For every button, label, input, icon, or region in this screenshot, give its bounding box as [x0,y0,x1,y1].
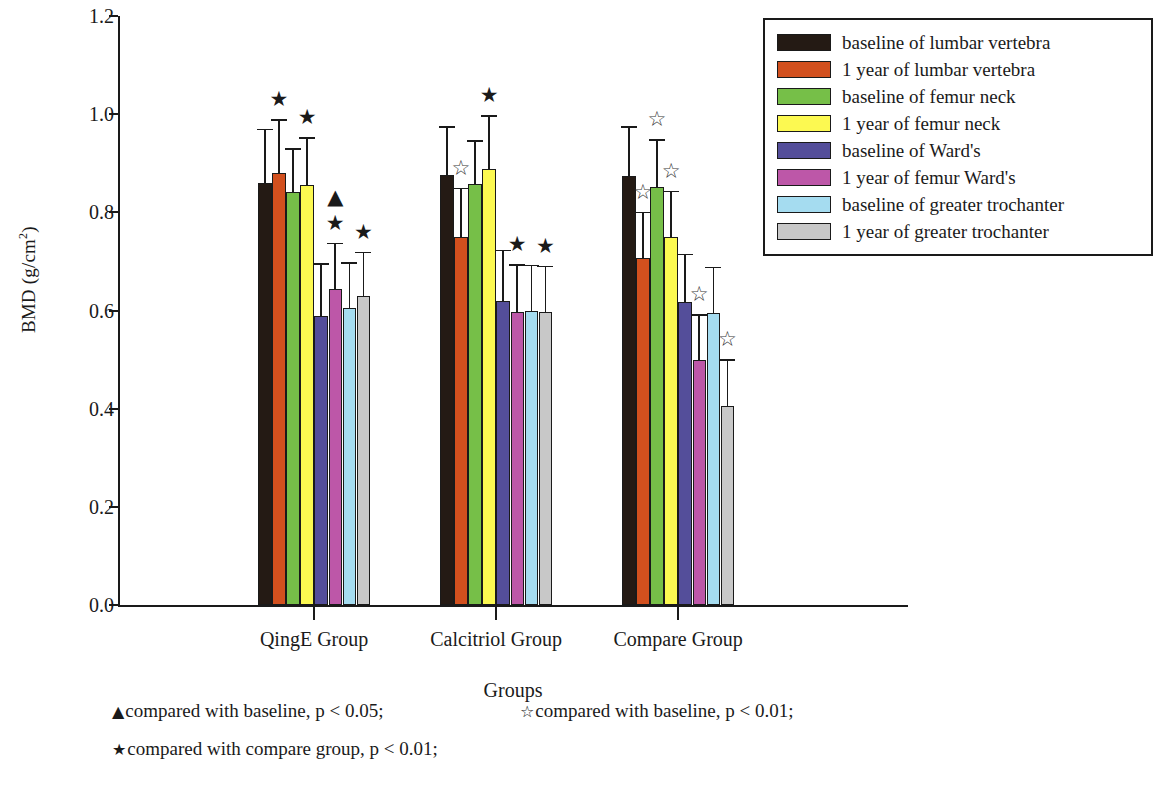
filled-triangle-icon: ▲ [112,702,124,721]
error-bar-cap [621,126,637,128]
error-bar-cap [285,148,301,150]
error-bar [334,243,336,290]
x-axis-line [118,605,908,607]
footnote-line-2: ★compared with compare group, p < 0.01; [112,738,1012,776]
error-bar-cap [677,254,693,256]
error-bar-cap [635,212,651,214]
legend-item: baseline of lumbar vertebra [777,29,1141,56]
legend-item-label: 1 year of greater trochanter [842,222,1049,241]
error-bar-cap [299,137,315,139]
error-bar-cap [537,266,553,268]
open-star-icon: ☆ [520,702,534,721]
error-bar-cap [691,314,707,316]
bar [693,360,707,605]
bar [329,289,343,605]
legend-swatch [777,61,831,78]
legend-item-label: baseline of femur neck [842,87,1016,106]
filled-star-icon: ★ [504,234,530,255]
x-axis-tick [495,607,497,620]
bar [454,237,468,605]
error-bar-cap [705,267,721,269]
bar [440,175,454,605]
open-star-icon: ☆ [448,158,474,179]
legend-swatch [777,169,831,186]
footnote-baseline-005: ▲compared with baseline, p < 0.05; [112,700,384,722]
legend-item-label: 1 year of femur Ward's [842,168,1016,187]
error-bar-cap [453,188,469,190]
error-bar [502,250,504,302]
error-bar [320,263,322,316]
legend-swatch [777,34,831,51]
error-bar [460,188,462,237]
legend-item: 1 year of femur neck [777,110,1141,137]
footnote-line-1: ▲compared with baseline, p < 0.05; ☆comp… [112,700,1012,738]
y-axis-tick-label: 1.0 [54,104,114,124]
bar [525,311,539,605]
open-star-icon: ☆ [644,109,670,130]
legend-item-label: 1 year of lumbar vertebra [842,60,1035,79]
error-bar [642,212,644,259]
bmd-bar-chart: BMD (g/cm2) 0.00.20.40.60.81.01.2 ★★★▲★☆… [0,0,1167,791]
bar [343,308,357,605]
chart-footnotes: ▲compared with baseline, p < 0.05; ☆comp… [112,700,1012,776]
filled-star-icon: ★ [266,89,292,110]
error-bar [474,140,476,184]
error-bar-cap [313,263,329,265]
filled-star-icon: ★ [322,213,348,234]
bar [511,312,525,605]
error-bar [628,126,630,176]
legend-swatch [777,196,831,213]
chart-legend: baseline of lumbar vertebra1 year of lum… [763,18,1153,256]
y-axis-tick-label: 0.8 [54,202,114,222]
filled-triangle-icon: ▲ [322,187,348,208]
x-axis-tick-label: Compare Group [568,628,788,651]
error-bar [670,191,672,238]
bar [650,187,664,605]
bar [678,302,692,605]
bar [636,258,650,605]
y-axis-tick-label: 0.2 [54,497,114,517]
bar [482,169,496,605]
bar [258,183,272,605]
filled-star-icon: ★ [112,740,126,759]
y-axis-title: BMD (g/cm2) [16,190,39,370]
y-axis-title-text: BMD (g/cm [18,239,39,333]
legend-item: baseline of femur neck [777,83,1141,110]
y-axis-tick-label: 0.6 [54,301,114,321]
error-bar-cap [257,129,273,131]
bar [272,173,286,605]
error-bar [698,314,700,359]
open-star-icon: ☆ [686,284,712,305]
legend-item-label: baseline of greater trochanter [842,195,1064,214]
x-axis-tick [313,607,315,620]
bar [468,184,482,605]
footnote-baseline-001-text: compared with baseline, p < 0.01; [535,700,793,721]
filled-star-icon: ★ [532,236,558,257]
error-bar [292,148,294,192]
legend-swatch [777,223,831,240]
footnote-compare-001: ★compared with compare group, p < 0.01; [112,738,438,760]
y-axis-tick-label: 0.0 [54,595,114,615]
error-bar-cap [649,139,665,141]
x-axis-title: Groups [118,679,908,702]
error-bar-cap [341,262,357,264]
legend-item: 1 year of greater trochanter [777,218,1141,245]
error-bar-cap [439,126,455,128]
footnote-baseline-005-text: compared with baseline, p < 0.05; [125,700,383,721]
error-bar [278,119,280,173]
legend-item-label: 1 year of femur neck [842,114,1000,133]
error-bar-cap [467,140,483,142]
error-bar [727,359,729,406]
error-bar [264,129,266,183]
y-axis-tick-label: 0.4 [54,399,114,419]
y-axis-line [118,16,120,605]
legend-item-label: baseline of Ward's [842,141,981,160]
error-bar-cap [481,115,497,117]
error-bar-cap [327,243,343,245]
y-axis-tick-label: 1.2 [54,6,114,26]
bar [622,176,636,605]
bar [664,237,678,605]
legend-item-label: baseline of lumbar vertebra [842,33,1050,52]
bar [539,312,553,605]
footnote-baseline-001: ☆compared with baseline, p < 0.01; [520,700,794,722]
